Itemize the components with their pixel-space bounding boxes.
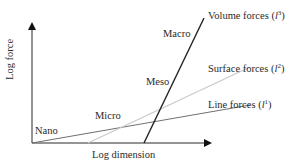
x-axis-arrow-icon <box>204 139 212 147</box>
volume-forces-exponent: 3 <box>278 9 282 17</box>
line-forces-line <box>32 105 250 143</box>
x-axis-label: Log dimension <box>92 150 155 161</box>
scaling-forces-diagram: Log force Log dimension Nano Micro Meso … <box>0 0 298 166</box>
regime-label-micro: Micro <box>95 111 121 122</box>
volume-forces-name: Volume forces <box>208 10 269 21</box>
y-axis-arrow-icon <box>28 22 36 30</box>
regime-label-meso: Meso <box>146 77 169 88</box>
surface-forces-exponent: 2 <box>277 62 281 70</box>
volume-forces-label: Volume forces (l3) <box>208 10 285 22</box>
regime-label-nano: Nano <box>35 126 58 137</box>
surface-forces-name: Surface forces <box>208 63 268 74</box>
line-forces-label: Line forces (l1) <box>208 99 272 111</box>
line-forces-exponent: 1 <box>265 98 269 106</box>
line-forces-name: Line forces <box>208 99 256 110</box>
surface-forces-label: Surface forces (l2) <box>208 63 284 75</box>
y-axis-label: Log force <box>4 39 15 80</box>
regime-label-macro: Macro <box>163 29 190 40</box>
